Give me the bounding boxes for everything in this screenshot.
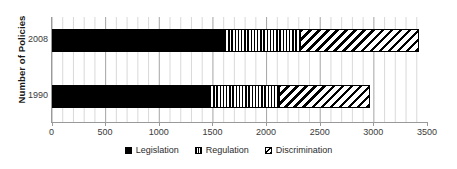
bar-segment-discrimination-2008 [300,29,419,52]
x-tick-3000 [373,122,374,126]
legend-item-discrimination[interactable]: Discrimination [265,145,333,155]
x-tick-3500 [427,122,428,126]
bar-segment-legislation-1990 [52,85,210,108]
x-tick-label-3500: 3500 [402,127,452,137]
x-tick-1000 [159,122,160,126]
y-category-label-1990: 1990 [22,90,48,100]
legend-label: Regulation [206,145,249,155]
x-tick-label-2500: 2500 [295,127,345,137]
bar-segment-legislation-2008 [52,29,225,52]
x-tick-1500 [212,122,213,126]
x-tick-label-1000: 1000 [134,127,184,137]
legend-swatch-vertical-stripes-icon [195,147,202,154]
stacked-bar-chart: Number of Policies 2008 1990 05001000150… [0,0,457,169]
legend-swatch-diagonal-stripes-icon [265,147,272,154]
x-tick-2500 [320,122,321,126]
chart-legend: LegislationRegulationDiscrimination [0,145,457,155]
legend-label: Discrimination [276,145,333,155]
bar-segment-regulation-1990 [209,85,279,108]
x-tick-label-500: 500 [80,127,130,137]
x-tick-0 [52,122,53,126]
legend-swatch-solid-black-icon [125,147,132,154]
bar-segment-regulation-2008 [224,29,300,52]
x-tick-label-3000: 3000 [348,127,398,137]
legend-item-regulation[interactable]: Regulation [195,145,249,155]
x-tick-label-1500: 1500 [187,127,237,137]
legend-item-legislation[interactable]: Legislation [125,145,179,155]
x-tick-label-2000: 2000 [241,127,291,137]
legend-label: Legislation [136,145,179,155]
bar-segment-discrimination-1990 [279,85,370,108]
x-tick-label-0: 0 [27,127,77,137]
x-tick-500 [105,122,106,126]
x-axis-line [51,122,428,123]
plot-area [52,17,428,122]
y-category-label-2008: 2008 [22,34,48,44]
x-tick-2000 [266,122,267,126]
